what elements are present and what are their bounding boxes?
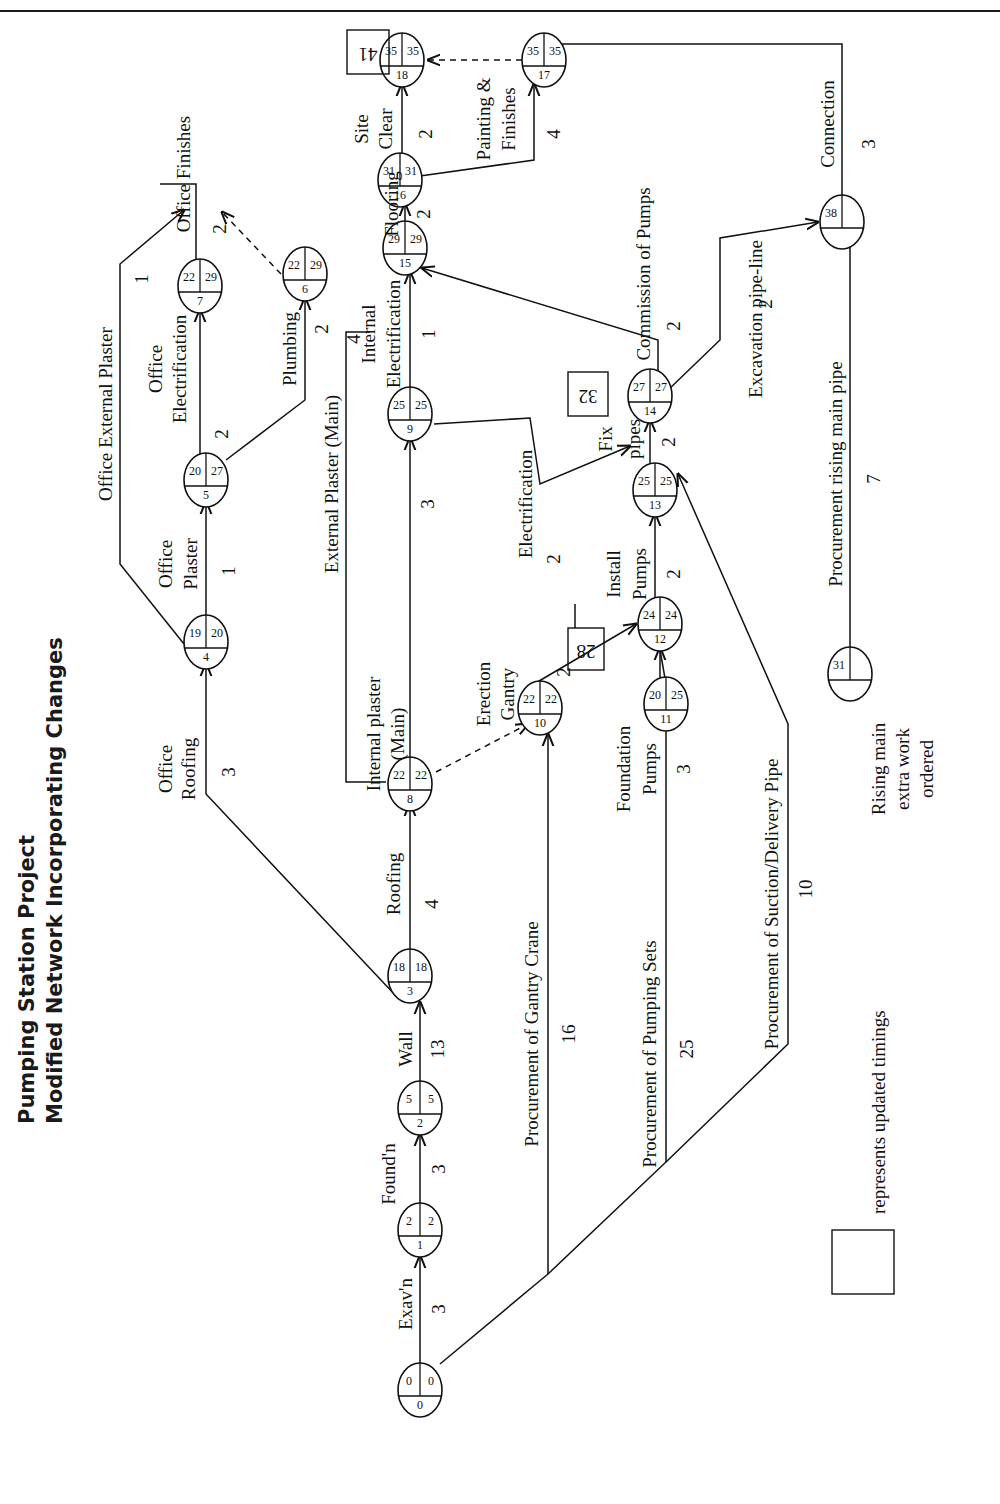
label-internal-elec-2: Electrification — [383, 279, 404, 388]
event-node: 38 — [820, 195, 864, 249]
label-proc-rising-main: Procurement rising main pipe — [825, 361, 846, 586]
label-erection-1: Erection — [473, 661, 494, 726]
updated-timing-28: 28 — [577, 641, 596, 662]
event-node: 142727 — [628, 369, 672, 423]
node-id: 6 — [302, 282, 308, 296]
node-earliest-time: 38 — [825, 206, 837, 220]
event-node: 173535 — [522, 33, 566, 87]
node-earliest-time: 25 — [638, 474, 650, 488]
node-id: 12 — [654, 632, 666, 646]
duration-flooring: 2 — [413, 209, 434, 219]
event-node: 122 — [398, 1203, 442, 1257]
node-earliest-time: 35 — [527, 44, 539, 58]
node-earliest-time: 25 — [393, 398, 405, 412]
label-foundation-pumps-1: Foundation — [613, 725, 634, 812]
node-id: 0 — [417, 1398, 423, 1412]
node-latest-time: 25 — [660, 474, 672, 488]
node-id: 11 — [660, 712, 672, 726]
duration-foundation-pumps: 3 — [673, 764, 694, 774]
nodes-layer: 0001222553181841920520276222972229822229… — [178, 33, 872, 1417]
diagram-title-line-1: Pumping Station Project — [15, 835, 39, 1124]
node-latest-time: 29 — [205, 270, 217, 284]
duration-proc-pumping: 25 — [676, 1040, 697, 1059]
edge-commission-pumps — [422, 268, 658, 396]
label-site-clear-2: Clear — [375, 108, 396, 150]
label-office-elec-1: Office — [145, 345, 166, 393]
node-id: 2 — [417, 1116, 423, 1130]
event-node: 52027 — [184, 453, 228, 507]
duration-painting: 4 — [543, 129, 564, 139]
label-internal-plaster-1: Internal plaster — [363, 676, 384, 791]
duration-commission: 2 — [663, 321, 684, 331]
node-latest-time: 0 — [428, 1374, 434, 1388]
label-flooring: Flooring — [381, 171, 402, 237]
node-id: 1 — [417, 1238, 423, 1252]
node-latest-time: 18 — [415, 960, 427, 974]
node-id: 3 — [407, 984, 413, 998]
duration-electrification: 2 — [543, 554, 564, 564]
duration-office-external-plaster: 1 — [131, 274, 152, 284]
event-node: 31 — [828, 647, 872, 701]
event-node: 122424 — [638, 597, 682, 651]
updated-timing-box: 32 — [568, 372, 608, 416]
label-office-roofing-2: Roofing — [178, 737, 199, 800]
label-fix-pipes-2: pipes — [623, 419, 644, 459]
legend-box-icon — [832, 1230, 894, 1294]
node-earliest-time: 5 — [406, 1092, 412, 1106]
node-latest-time: 35 — [549, 44, 561, 58]
label-excavation-pipeline: Excavation pipe-line — [745, 240, 766, 398]
duration-wall: 13 — [427, 1040, 448, 1059]
duration-office-plaster: 1 — [218, 566, 239, 576]
duration-connection: 3 — [858, 139, 879, 149]
node-latest-time: 2 — [428, 1214, 434, 1228]
legend: represents updated timings Rising main e… — [832, 722, 937, 1294]
node-id: 18 — [396, 68, 408, 82]
label-office-plaster-2: Plaster — [180, 537, 201, 589]
duration-exavn: 3 — [428, 1304, 449, 1314]
duration-office-roofing: 3 — [218, 767, 239, 777]
node-id: 4 — [203, 650, 209, 664]
label-roofing: Roofing — [383, 852, 404, 915]
event-node: 183535 — [380, 33, 424, 87]
node-earliest-time: 2 — [406, 1214, 412, 1228]
label-proc-gantry: Procurement of Gantry Crane — [521, 921, 542, 1146]
duration-office-elec: 2 — [211, 429, 232, 439]
node-latest-time: 24 — [665, 608, 677, 622]
updated-timing-41: 41 — [359, 44, 378, 65]
edge-connection — [550, 44, 842, 202]
event-node: 72229 — [178, 259, 222, 313]
label-site-clear-1: Site — [351, 114, 372, 144]
label-commission-pumps: Commission of Pumps — [633, 187, 654, 360]
node-earliest-time: 22 — [393, 768, 405, 782]
duration-internal-elec: 1 — [418, 329, 439, 339]
label-install-pumps-2: Pumps — [629, 548, 650, 600]
duration-erection: 2 — [553, 667, 574, 677]
event-node: 000 — [398, 1363, 442, 1417]
diagram-title: Modified Network Incorporating Changes — [43, 637, 67, 1124]
label-proc-suction: Procurement of Suction/Delivery Pipe — [761, 759, 782, 1050]
duration-site-clear: 2 — [415, 129, 436, 139]
event-node: 62229 — [283, 247, 327, 301]
event-node: 92525 — [388, 387, 432, 441]
node-latest-time: 5 — [428, 1092, 434, 1106]
node-earliest-time: 31 — [833, 658, 845, 672]
label-internal-elec-1: Internal — [358, 304, 379, 363]
node-id: 9 — [407, 422, 413, 436]
node-latest-time: 22 — [545, 692, 557, 706]
label-install-pumps-1: Install — [603, 550, 624, 598]
legend-text: represents updated timings — [868, 1010, 889, 1214]
label-office-finishes: Office Finishes — [173, 116, 194, 232]
node-latest-time: 27 — [655, 380, 667, 394]
node-earliest-time: 22 — [523, 692, 535, 706]
event-node: 255 — [398, 1081, 442, 1135]
node-earliest-time: 24 — [643, 608, 655, 622]
label-foundn: Found'n — [378, 1143, 399, 1205]
label-painting-1: Painting & — [473, 77, 494, 160]
label-office-external-plaster: Office External Plaster — [95, 326, 116, 500]
label-internal-plaster-2: (Main) — [387, 708, 409, 761]
event-node: 31818 — [388, 949, 432, 1003]
event-node: 102222 — [518, 681, 562, 735]
node-latest-time: 31 — [405, 164, 417, 178]
node-earliest-time: 22 — [288, 258, 300, 272]
node-latest-time: 27 — [211, 464, 223, 478]
